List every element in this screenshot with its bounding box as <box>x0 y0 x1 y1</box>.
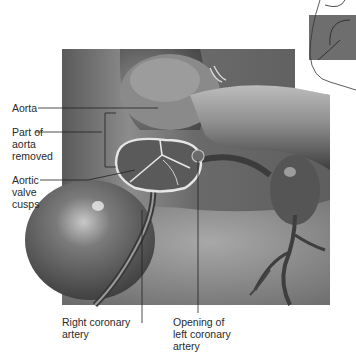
label-aortic-cusps: Aortic valve cusps <box>12 174 39 210</box>
label-left-coronary-opening: Opening of left coronary artery <box>173 316 231 352</box>
main-panel <box>25 49 330 305</box>
aortic-valve <box>116 139 204 192</box>
label-aorta: Aorta <box>12 102 37 114</box>
label-right-coronary: Right coronary artery <box>62 316 130 340</box>
orientation-inset <box>309 0 356 90</box>
label-part-removed: Part of aorta removed <box>12 126 53 162</box>
